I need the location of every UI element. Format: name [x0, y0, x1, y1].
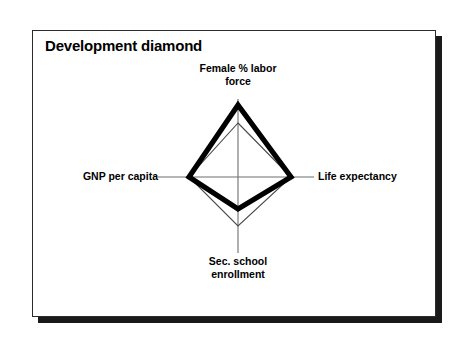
axis-label-sec-school-enrollment: Sec. school enrollment: [168, 255, 308, 280]
radar-chart: Female % labor force Sec. school enrollm…: [33, 31, 437, 318]
axis-label-life-expectancy: Life expectancy: [318, 170, 443, 183]
country-diamond-outline: [189, 105, 291, 209]
axis-label-bottom-line1: Sec. school: [209, 255, 267, 267]
axis-label-top-line2: force: [225, 75, 251, 87]
axis-label-bottom-line2: enrollment: [211, 268, 265, 280]
axis-label-female-labor-force: Female % labor force: [168, 62, 308, 87]
axis-label-left-text: GNP per capita: [83, 170, 158, 182]
axis-label-top-line1: Female % labor: [199, 62, 276, 74]
development-diamond-panel: Development diamond Female % labor force…: [32, 30, 436, 317]
axis-label-gnp-per-capita: GNP per capita: [33, 170, 158, 183]
screenshot-root: Development diamond Female % labor force…: [0, 0, 466, 349]
axis-label-right-text: Life expectancy: [318, 170, 397, 182]
